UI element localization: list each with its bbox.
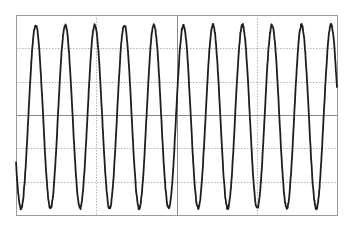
waveform-chart (0, 0, 351, 228)
waveform-trace (16, 24, 337, 210)
